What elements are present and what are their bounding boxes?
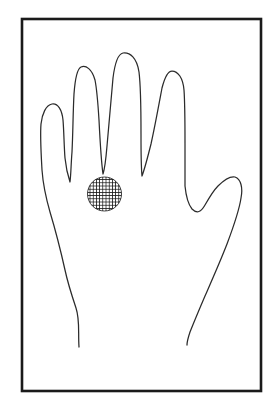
border-rectangle: [22, 19, 261, 391]
figure-root: [0, 0, 279, 413]
hand-diagram-svg: [0, 0, 279, 413]
